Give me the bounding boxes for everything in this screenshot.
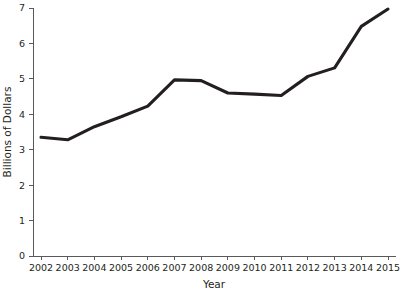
y-tick-label: 3: [19, 144, 25, 155]
y-axis: 01234567 Billions of Dollars: [1, 2, 33, 261]
x-tick-label: 2004: [82, 262, 106, 273]
series-line-billions-of-dollars: [41, 9, 388, 140]
x-tick-label: 2005: [109, 262, 133, 273]
y-axis-title: Billions of Dollars: [1, 87, 13, 178]
x-tick-label: 2014: [349, 262, 373, 273]
y-tick-label-group: 01234567: [19, 2, 25, 261]
x-tick-label: 2003: [56, 262, 80, 273]
x-tick-label: 2008: [189, 262, 213, 273]
y-tick-label: 0: [19, 250, 25, 261]
x-tick-label: 2013: [323, 262, 347, 273]
x-tick-label-group: 2002200320042005200620072008200920102011…: [29, 262, 400, 273]
x-tick-label: 2009: [216, 262, 240, 273]
x-tick-label: 2010: [242, 262, 266, 273]
y-tick-group: [29, 8, 33, 256]
x-tick-label: 2015: [376, 262, 400, 273]
y-tick-label: 6: [19, 38, 25, 49]
x-axis: 2002200320042005200620072008200920102011…: [29, 256, 400, 290]
x-tick-group: [41, 256, 388, 260]
y-tick-label: 2: [19, 180, 25, 191]
y-tick-label: 1: [19, 215, 25, 226]
y-tick-label: 5: [19, 73, 25, 84]
x-tick-label: 2006: [136, 262, 160, 273]
x-tick-label: 2012: [296, 262, 320, 273]
x-tick-label: 2007: [162, 262, 186, 273]
y-tick-label: 7: [19, 2, 25, 13]
y-tick-label: 4: [19, 109, 25, 120]
x-tick-label: 2002: [29, 262, 53, 273]
chart-canvas: 01234567 Billions of Dollars 20022003200…: [0, 0, 404, 293]
data-series-group: [41, 9, 388, 140]
x-tick-label: 2011: [269, 262, 293, 273]
x-axis-title: Year: [202, 278, 226, 290]
line-chart: 01234567 Billions of Dollars 20022003200…: [0, 0, 404, 293]
